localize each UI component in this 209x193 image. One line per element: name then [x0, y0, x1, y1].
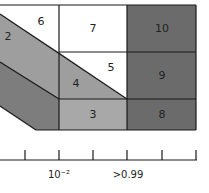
region-label-9: 9	[159, 69, 166, 82]
x-axis	[0, 150, 197, 160]
region-label-2: 2	[5, 30, 12, 43]
region-label-6: 6	[38, 15, 45, 28]
axis-label-1e-2: 10⁻²	[48, 169, 70, 180]
region-label-7: 7	[90, 22, 97, 35]
region-label-3: 3	[90, 108, 97, 121]
region-label-10: 10	[155, 22, 169, 35]
region-label-5: 5	[108, 61, 115, 74]
axis-label-gt-0-99: >0.99	[113, 169, 144, 180]
region-diagram: 6 2 7 10 5 4 9 3 8 10⁻² >0.99	[0, 0, 209, 193]
region-label-8: 8	[159, 108, 166, 121]
region-label-4: 4	[73, 77, 80, 90]
